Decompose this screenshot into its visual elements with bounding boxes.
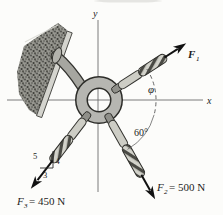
y-axis-label: y	[92, 8, 98, 19]
f1-arrow-shaft	[164, 49, 177, 58]
f3-label: F 3 = 450 N	[16, 195, 65, 210]
f3-subscript: 3	[23, 202, 28, 210]
f1-label: F 1	[187, 48, 200, 63]
slope-horiz-label: 3	[43, 170, 47, 180]
f3-symbol: F	[16, 195, 24, 207]
f2-value: = 500 N	[169, 181, 205, 193]
sixty-degree-label: 60°	[134, 127, 148, 138]
cropped-text-artifact	[94, 0, 162, 3]
f1-arrow-head	[173, 40, 189, 54]
statics-force-diagram: x y	[0, 0, 223, 215]
diagram-stage: x y	[0, 0, 223, 215]
f2-symbol: F	[156, 181, 164, 193]
wall-support	[17, 23, 83, 118]
slope-triangle: 5 4 3	[33, 151, 61, 180]
x-axis-label: x	[206, 95, 212, 106]
f2-label: F 2 = 500 N	[156, 181, 205, 196]
phi-label: φ	[148, 83, 154, 95]
slope-hyp-label: 5	[33, 151, 37, 161]
f3-value: = 450 N	[29, 195, 65, 207]
f2-arrow-shaft	[141, 175, 150, 191]
f1-symbol: F	[187, 48, 196, 60]
eyebolt-stem	[56, 56, 83, 88]
f2-subscript: 2	[164, 188, 168, 196]
f1-subscript: 1	[196, 55, 200, 63]
